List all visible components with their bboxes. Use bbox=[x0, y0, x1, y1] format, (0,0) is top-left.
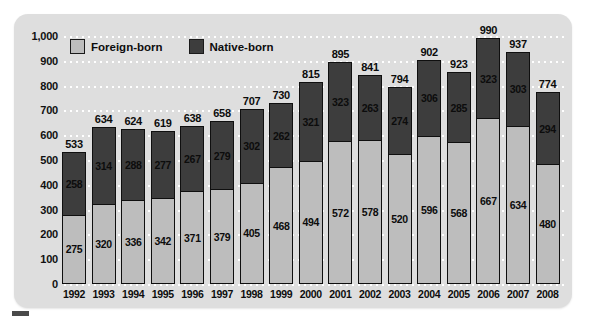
bar-total-label: 937 bbox=[509, 38, 526, 50]
bar-group[interactable]: 263578841 bbox=[358, 75, 382, 284]
bar-group[interactable]: 323667990 bbox=[476, 38, 500, 284]
bar-segment-native-born[interactable]: 279 bbox=[211, 122, 233, 190]
bar-group[interactable]: 294480774 bbox=[536, 92, 560, 284]
stacked-bar[interactable]: 277342 bbox=[151, 131, 175, 285]
bar-segment-native-born[interactable]: 285 bbox=[448, 73, 470, 143]
bar-segment-value-label: 288 bbox=[125, 159, 142, 171]
bar-total-label: 707 bbox=[243, 95, 260, 107]
bar-group[interactable]: 279379658 bbox=[210, 121, 234, 284]
stacked-bar[interactable]: 288336 bbox=[121, 129, 145, 284]
bar-segment-foreign-born[interactable]: 371 bbox=[181, 192, 203, 283]
bar-segment-value-label: 279 bbox=[214, 150, 231, 162]
bar-segment-value-label: 294 bbox=[539, 123, 556, 135]
bar-total-label: 533 bbox=[65, 138, 82, 150]
stacked-bar[interactable]: 323667 bbox=[476, 38, 500, 284]
bar-segment-native-born[interactable]: 262 bbox=[270, 104, 292, 168]
y-axis-tick-label: 0 bbox=[14, 278, 58, 290]
stacked-bar[interactable]: 323572 bbox=[328, 62, 352, 284]
bar-segment-native-born[interactable]: 263 bbox=[359, 76, 381, 141]
bar-segment-value-label: 306 bbox=[421, 92, 438, 104]
bar-segment-value-label: 320 bbox=[95, 238, 112, 250]
bar-group[interactable]: 302405707 bbox=[240, 109, 264, 284]
bar-total-label: 658 bbox=[213, 107, 230, 119]
stacked-bar[interactable]: 314320 bbox=[92, 127, 116, 284]
stacked-bar[interactable]: 258275 bbox=[62, 152, 86, 284]
scan-artifact-mark bbox=[12, 311, 29, 316]
bar-total-label: 902 bbox=[420, 46, 437, 58]
bar-group[interactable]: 306596902 bbox=[417, 60, 441, 284]
stacked-bar[interactable]: 294480 bbox=[536, 92, 560, 284]
bar-segment-value-label: 336 bbox=[125, 236, 142, 248]
bar-segment-foreign-born[interactable]: 468 bbox=[270, 168, 292, 283]
bar-segment-native-born[interactable]: 321 bbox=[300, 83, 322, 162]
stacked-bar[interactable]: 302405 bbox=[240, 109, 264, 284]
bar-segment-foreign-born[interactable]: 480 bbox=[537, 165, 559, 283]
bar-group[interactable]: 314320634 bbox=[92, 127, 116, 284]
bar-group[interactable]: 303634937 bbox=[506, 52, 530, 284]
bar-segment-foreign-born[interactable]: 275 bbox=[63, 216, 85, 283]
bar-segment-value-label: 262 bbox=[273, 130, 290, 142]
bar-segment-value-label: 277 bbox=[154, 159, 171, 171]
stacked-bar[interactable]: 262468 bbox=[269, 103, 293, 284]
bar-segment-value-label: 379 bbox=[214, 231, 231, 243]
gridline bbox=[62, 284, 566, 286]
bar-segment-foreign-born[interactable]: 320 bbox=[93, 205, 115, 283]
bar-segment-native-born[interactable]: 294 bbox=[537, 93, 559, 165]
stacked-bar[interactable]: 321494 bbox=[299, 82, 323, 284]
stacked-bar[interactable]: 279379 bbox=[210, 121, 234, 284]
bar-segment-native-born[interactable]: 303 bbox=[507, 53, 529, 128]
bar-group[interactable]: 258275533 bbox=[62, 152, 86, 284]
stacked-bar[interactable]: 274520 bbox=[388, 87, 412, 284]
stacked-bar[interactable]: 267371 bbox=[180, 126, 204, 284]
bar-segment-foreign-born[interactable]: 405 bbox=[241, 184, 263, 283]
bar-segment-foreign-born[interactable]: 494 bbox=[300, 162, 322, 283]
bar-group[interactable]: 267371638 bbox=[180, 126, 204, 284]
bar-segment-foreign-born[interactable]: 667 bbox=[477, 119, 499, 283]
bar-segment-native-born[interactable]: 274 bbox=[389, 88, 411, 155]
y-axis-tick-label: 800 bbox=[14, 80, 58, 92]
bar-group[interactable]: 323572895 bbox=[328, 62, 352, 284]
bar-segment-native-born[interactable]: 302 bbox=[241, 110, 263, 184]
bar-segment-foreign-born[interactable]: 520 bbox=[389, 155, 411, 283]
stacked-bar[interactable]: 263578 bbox=[358, 75, 382, 284]
bar-segment-foreign-born[interactable]: 342 bbox=[152, 199, 174, 283]
bar-segment-value-label: 274 bbox=[391, 115, 408, 127]
bar-segment-native-born[interactable]: 323 bbox=[329, 63, 351, 142]
bar-group[interactable]: 277342619 bbox=[151, 131, 175, 285]
bar-segment-foreign-born[interactable]: 596 bbox=[418, 137, 440, 283]
bar-segment-foreign-born[interactable]: 568 bbox=[448, 143, 470, 283]
bar-segment-native-born[interactable]: 306 bbox=[418, 61, 440, 136]
bar-segment-value-label: 405 bbox=[243, 227, 260, 239]
bar-segment-foreign-born[interactable]: 578 bbox=[359, 141, 381, 283]
chart-panel: 01002003004005006007008009001,000 Foreig… bbox=[14, 14, 572, 308]
stacked-bar[interactable]: 306596 bbox=[417, 60, 441, 284]
bar-segment-value-label: 275 bbox=[66, 243, 83, 255]
bar-group[interactable]: 274520794 bbox=[388, 87, 412, 284]
bar-total-label: 634 bbox=[95, 113, 112, 125]
y-axis-tick-label: 300 bbox=[14, 204, 58, 216]
bar-segment-value-label: 263 bbox=[362, 102, 379, 114]
bar-group[interactable]: 321494815 bbox=[299, 82, 323, 284]
bar-segment-value-label: 578 bbox=[362, 206, 379, 218]
bar-total-label: 619 bbox=[154, 117, 171, 129]
stacked-bar[interactable]: 303634 bbox=[506, 52, 530, 284]
bar-group[interactable]: 285568923 bbox=[447, 72, 471, 284]
bar-segment-foreign-born[interactable]: 336 bbox=[122, 201, 144, 283]
bar-segment-value-label: 302 bbox=[243, 140, 260, 152]
bar-segment-native-born[interactable]: 267 bbox=[181, 127, 203, 192]
bar-segment-native-born[interactable]: 258 bbox=[63, 153, 85, 216]
stacked-bar[interactable]: 285568 bbox=[447, 72, 471, 284]
bar-segment-native-born[interactable]: 277 bbox=[152, 132, 174, 200]
bar-segment-native-born[interactable]: 314 bbox=[93, 128, 115, 205]
bar-segment-native-born[interactable]: 323 bbox=[477, 39, 499, 118]
bar-segment-value-label: 494 bbox=[302, 216, 319, 228]
bar-segment-foreign-born[interactable]: 634 bbox=[507, 127, 529, 283]
bar-segment-native-born[interactable]: 288 bbox=[122, 130, 144, 201]
bar-segment-foreign-born[interactable]: 379 bbox=[211, 190, 233, 283]
bar-segment-value-label: 314 bbox=[95, 160, 112, 172]
bar-segment-value-label: 596 bbox=[421, 204, 438, 216]
bar-total-label: 774 bbox=[539, 78, 556, 90]
bar-segment-foreign-born[interactable]: 572 bbox=[329, 142, 351, 283]
bar-group[interactable]: 262468730 bbox=[269, 103, 293, 284]
bar-group[interactable]: 288336624 bbox=[121, 129, 145, 284]
